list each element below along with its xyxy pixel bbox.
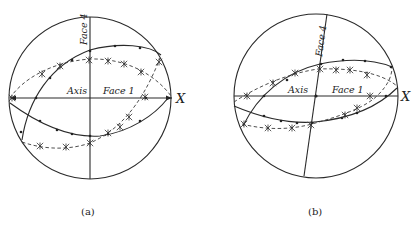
- x-label: X: [175, 91, 186, 106]
- caption-a: (a): [81, 206, 95, 217]
- caption-b: (b): [308, 206, 322, 217]
- panel-b: Axis Face 1 Face 4 X (b): [234, 14, 411, 217]
- panel-a: Axis Face 1 Face 4 X (a): [9, 13, 186, 217]
- dot-markers: [263, 59, 393, 125]
- face1-label: Face 1: [331, 84, 364, 95]
- cross-markers: [9, 57, 162, 151]
- solid-curve-upper: [22, 45, 161, 140]
- face4-label: Face 4: [313, 24, 328, 58]
- x-label: X: [400, 89, 411, 104]
- face1-label: Face 1: [102, 85, 135, 96]
- stereographic-projection-figure: Axis Face 1 Face 4 X (a): [0, 0, 412, 225]
- solid-curve-lower: [10, 98, 168, 136]
- face4-label: Face 4: [78, 13, 89, 46]
- axis-label: Axis: [287, 84, 308, 95]
- dashed-curve-lower: [242, 67, 392, 129]
- axis-label: Axis: [66, 85, 87, 96]
